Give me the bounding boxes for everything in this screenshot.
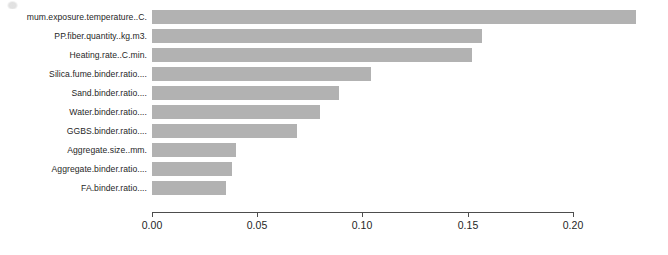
bar-row: mum.exposure.temperature..C. (0, 8, 668, 27)
x-axis-tick (362, 212, 363, 217)
bar-track (152, 29, 482, 43)
x-axis-tick-label: 0.10 (352, 219, 372, 231)
bar-row: Heating.rate..C.min. (0, 46, 668, 65)
bar-row: Aggregate.binder.ratio.... (0, 160, 668, 179)
bar-track (152, 67, 371, 81)
bar-track (152, 162, 232, 176)
x-axis-tick-label: 0.20 (563, 219, 583, 231)
plot-area: mum.exposure.temperature..C. PP.fiber.qu… (0, 0, 668, 255)
x-axis-tick (468, 212, 469, 217)
bar-row: Aggregate.size..mm. (0, 141, 668, 160)
bar-fill (152, 162, 232, 176)
bar-track (152, 181, 226, 195)
bar-track (152, 143, 236, 157)
bar-row: GGBS.binder.ratio.... (0, 122, 668, 141)
bar-label: Water.binder.ratio.... (69, 103, 147, 122)
x-axis-tick-label: 0.15 (458, 219, 478, 231)
bar-track (152, 124, 297, 138)
bar-row: Silica.fume.binder.ratio.... (0, 65, 668, 84)
bar-label: Aggregate.size..mm. (67, 141, 147, 160)
bar-label: Heating.rate..C.min. (70, 46, 147, 65)
x-axis-tick (257, 212, 258, 217)
bar-fill (152, 29, 482, 43)
x-axis-tick (152, 212, 153, 217)
bar-fill (152, 143, 236, 157)
bar-fill (152, 10, 636, 24)
feature-importance-bar-chart: mum.exposure.temperature..C. PP.fiber.qu… (0, 0, 668, 255)
x-axis-tick (573, 212, 574, 217)
bar-fill (152, 124, 297, 138)
bar-track (152, 86, 339, 100)
x-axis-tick-label: 0.00 (142, 219, 162, 231)
bar-label: FA.binder.ratio.... (81, 179, 147, 198)
bar-label: Silica.fume.binder.ratio.... (49, 65, 147, 84)
bar-fill (152, 105, 320, 119)
bar-label: PP.fiber.quantity..kg.m3. (54, 27, 147, 46)
bar-row: FA.binder.ratio.... (0, 179, 668, 198)
bar-fill (152, 67, 371, 81)
bar-label: GGBS.binder.ratio.... (67, 122, 147, 141)
bar-fill (152, 86, 339, 100)
bar-row: Sand.binder.ratio.... (0, 84, 668, 103)
bar-row: Water.binder.ratio.... (0, 103, 668, 122)
bar-label: mum.exposure.temperature..C. (27, 8, 147, 27)
bar-fill (152, 48, 472, 62)
bar-track (152, 48, 472, 62)
bar-track (152, 10, 636, 24)
bar-track (152, 105, 320, 119)
bar-label: Sand.binder.ratio.... (71, 84, 147, 103)
bar-row: PP.fiber.quantity..kg.m3. (0, 27, 668, 46)
x-axis-tick-label: 0.05 (247, 219, 267, 231)
bar-fill (152, 181, 226, 195)
bar-label: Aggregate.binder.ratio.... (52, 160, 147, 179)
